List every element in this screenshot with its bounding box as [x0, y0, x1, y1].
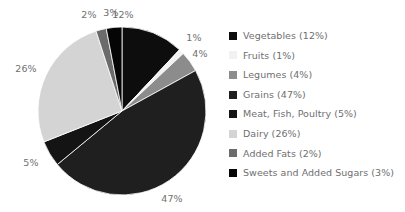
pie-slice-percentage-label: 2% [81, 10, 96, 20]
legend-item-label: Fruits (1%) [243, 51, 295, 61]
legend-item[interactable]: Grains (47%) [229, 85, 405, 105]
legend-item[interactable]: Sweets and Added Sugars (3%) [229, 163, 405, 183]
legend-item-label: Vegetables (12%) [243, 31, 328, 41]
pie-slice-percentage-label: 4% [192, 49, 207, 59]
legend-item-label: Grains (47%) [243, 90, 306, 100]
legend-item[interactable]: Fruits (1%) [229, 46, 405, 66]
legend-item-label: Added Fats (2%) [243, 149, 322, 159]
legend-swatch-icon [229, 149, 237, 157]
legend-swatch-icon [229, 71, 237, 79]
legend-swatch-icon [229, 32, 237, 40]
pie-chart-plot-area: 12%1%4%47%5%26%2%3% [0, 0, 222, 212]
legend-item[interactable]: Vegetables (12%) [229, 26, 405, 46]
pie-slice-percentage-label: 1% [186, 33, 201, 43]
pie-slice-percentage-label: 26% [15, 64, 36, 74]
pie-slice-percentage-label: 5% [23, 158, 38, 168]
legend-item-label: Meat, Fish, Poultry (5%) [243, 109, 357, 119]
chart-legend: Vegetables (12%)Fruits (1%)Legumes (4%)G… [229, 26, 405, 183]
legend-item[interactable]: Added Fats (2%) [229, 144, 405, 164]
legend-swatch-icon [229, 110, 237, 118]
legend-item-label: Sweets and Added Sugars (3%) [243, 168, 394, 178]
pie-slice-percentage-label: 47% [161, 194, 182, 204]
legend-swatch-icon [229, 130, 237, 138]
legend-item[interactable]: Meat, Fish, Poultry (5%) [229, 104, 405, 124]
legend-swatch-icon [229, 169, 237, 177]
legend-swatch-icon [229, 91, 237, 99]
pie-slice-percentage-label: 3% [103, 8, 118, 18]
legend-item[interactable]: Legumes (4%) [229, 65, 405, 85]
legend-item[interactable]: Dairy (26%) [229, 124, 405, 144]
pie-chart-figure: 12%1%4%47%5%26%2%3% Vegetables (12%)Frui… [0, 0, 405, 212]
legend-item-label: Dairy (26%) [243, 129, 300, 139]
legend-item-label: Legumes (4%) [243, 70, 312, 80]
legend-swatch-icon [229, 51, 237, 59]
